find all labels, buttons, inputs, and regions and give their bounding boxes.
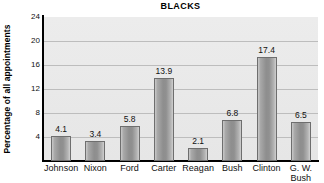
- x-tick-label: G. W. Bush: [277, 163, 324, 183]
- bar-series: 4.13.45.813.92.16.817.46.5: [44, 17, 318, 161]
- bar: [85, 141, 105, 161]
- bar-value-label: 5.8: [110, 115, 150, 124]
- y-axis-title: Percentage of all appointments: [2, 24, 12, 153]
- bar: [154, 78, 174, 161]
- bar-value-label: 17.4: [247, 46, 287, 55]
- bar: [257, 57, 277, 161]
- bar-value-label: 6.8: [212, 109, 252, 118]
- y-tick-label: 8: [14, 109, 40, 117]
- chart-title: BLACKS: [43, 1, 318, 12]
- y-axis-tick-labels: 4812162024: [12, 0, 40, 183]
- bar-value-label: 2.1: [178, 137, 218, 146]
- y-tick-label: 12: [14, 85, 40, 93]
- bar: [120, 126, 140, 161]
- bar-value-label: 13.9: [144, 67, 184, 76]
- bar-chart: BLACKS Percentage of all appointments 48…: [0, 0, 324, 183]
- y-tick-label: 24: [14, 13, 40, 21]
- bar: [188, 148, 208, 161]
- y-tick-label: 16: [14, 61, 40, 69]
- bar: [51, 136, 71, 161]
- bar: [291, 122, 311, 161]
- bar: [222, 120, 242, 161]
- x-axis-tick-labels: JohnsonNixonFordCarterReaganBushClintonG…: [44, 163, 318, 183]
- bar-value-label: 6.5: [281, 111, 321, 120]
- y-tick-label: 4: [14, 133, 40, 141]
- y-tick-label: 20: [14, 37, 40, 45]
- bar-value-label: 3.4: [75, 130, 115, 139]
